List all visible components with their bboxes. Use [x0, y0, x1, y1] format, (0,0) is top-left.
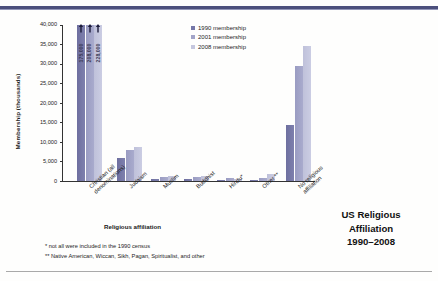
chart-title-block: US Religious Affiliation 1990–2008 [316, 208, 426, 249]
bar-value-label: 208,000 [86, 36, 94, 76]
bar [217, 180, 225, 181]
bar [303, 46, 311, 181]
y-tick-label: 25,000 [27, 80, 57, 86]
legend-swatch [191, 35, 195, 39]
chart-title-line-3: 1990–2008 [316, 235, 426, 249]
truncation-arrow-icon [86, 24, 94, 33]
y-tick-label: 0 [27, 178, 57, 184]
bar [151, 179, 159, 181]
footnote-two: ** Native American, Wiccan, Sikh, Pagan,… [45, 253, 205, 259]
bar-groups: 175,000208,000228,000 [63, 25, 315, 182]
legend-item: 2001 membership [191, 33, 246, 43]
bar-value-text: 228,000 [95, 43, 101, 62]
bar: 208,000 [86, 25, 94, 182]
bar: 228,000 [94, 25, 102, 182]
y-tick-label: 20,000 [27, 100, 57, 106]
y-tick-label: 30,000 [27, 60, 57, 66]
bar-group [250, 25, 276, 182]
legend-swatch [191, 45, 195, 49]
bar-group [151, 25, 177, 182]
y-tick-label: 15,000 [27, 119, 57, 125]
legend-item: 2008 membership [191, 42, 246, 52]
y-axis-title-text: Membership (thousands) [15, 73, 22, 149]
y-tick-label: 35,000 [27, 41, 57, 47]
chart-title-line-1: US Religious [316, 208, 426, 222]
legend-label: 2001 membership [198, 34, 246, 40]
x-axis-title: Religious affiliation [104, 223, 161, 230]
bar-value-label: 228,000 [94, 36, 102, 76]
bar-value-text: 208,000 [87, 43, 93, 62]
bar-value-text: 175,000 [78, 43, 84, 62]
truncation-arrow-icon [77, 24, 85, 33]
bar-group: 175,000208,000228,000 [77, 25, 103, 182]
y-tick-label: 5,000 [27, 158, 57, 164]
bar [295, 66, 303, 181]
bar-group [117, 25, 143, 182]
legend-swatch [191, 26, 195, 30]
legend-label: 1990 membership [198, 25, 246, 31]
y-tick-label: 10,000 [27, 139, 57, 145]
bar [250, 180, 258, 181]
bar [126, 150, 134, 181]
legend-item: 1990 membership [191, 23, 246, 33]
chart-title-line-2: Affiliation [316, 222, 426, 236]
bar-value-label: 175,000 [77, 36, 85, 76]
bar: 175,000 [77, 25, 85, 182]
chart-page: Membership (thousands) 05,00010,00015,00… [0, 0, 438, 281]
bar-group [286, 25, 312, 182]
y-tick-label: 40,000 [27, 21, 57, 27]
footnote-one: * not all were included in the 1990 cens… [45, 243, 150, 249]
bar [286, 125, 294, 181]
chart-legend: 1990 membership2001 membership2008 membe… [191, 23, 246, 52]
truncation-arrow-icon [94, 24, 102, 33]
bar [184, 179, 192, 181]
legend-label: 2008 membership [198, 44, 246, 50]
y-axis-title: Membership (thousands) [13, 52, 23, 170]
